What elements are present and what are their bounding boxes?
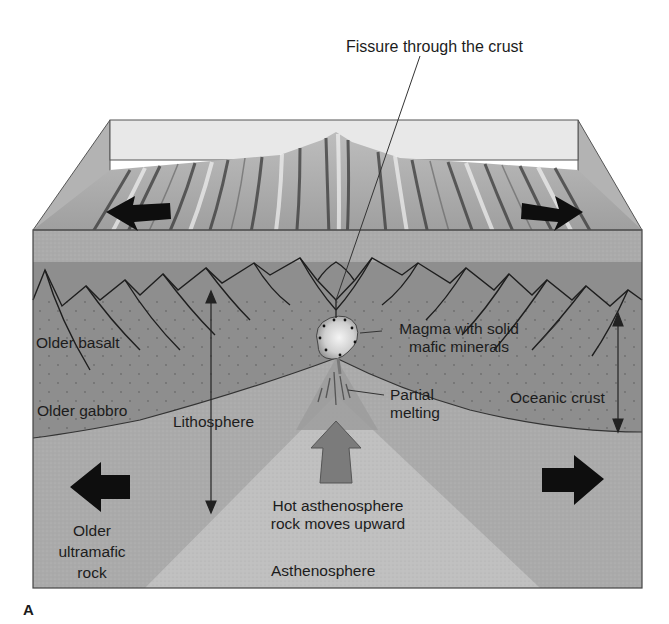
label-partial-line2: melting [390, 404, 440, 422]
label-magma-line1: Magma with solid [384, 320, 534, 338]
label-hot-line1: Hot asthenosphere [250, 497, 426, 515]
label-magma: Magma with solid mafic minerals [384, 320, 534, 356]
label-lithosphere: Lithosphere [173, 413, 254, 431]
ridge-diagram: Fissure through the crust Magma with sol… [0, 0, 669, 624]
label-oceanic-crust: Oceanic crust [510, 389, 605, 407]
label-older-gabbro: Older gabbro [37, 402, 127, 420]
label-ultramafic-line1: Older [40, 520, 144, 541]
label-fissure: Fissure through the crust [346, 38, 523, 56]
panel-letter: A [23, 601, 34, 618]
label-partial-melting: Partial melting [390, 386, 440, 422]
label-hot-asthenosphere: Hot asthenosphere rock moves upward [250, 497, 426, 533]
label-ultramafic-line3: rock [40, 562, 144, 583]
label-older-basalt: Older basalt [36, 334, 120, 352]
label-older-ultramafic: Older ultramafic rock [40, 520, 144, 583]
label-partial-line1: Partial [390, 386, 440, 404]
label-ultramafic-line2: ultramafic [40, 541, 144, 562]
label-magma-line2: mafic minerals [384, 338, 534, 356]
label-asthenosphere: Asthenosphere [271, 562, 375, 580]
label-hot-line2: rock moves upward [250, 515, 426, 533]
